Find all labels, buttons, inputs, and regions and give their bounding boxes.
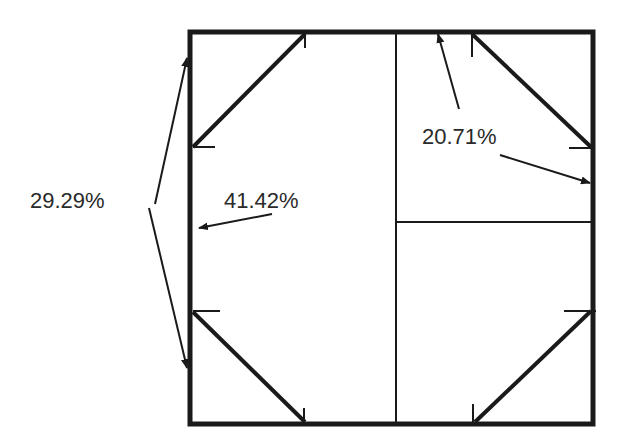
octagon-diagram: 29.29% 41.42% 20.71% <box>0 0 626 448</box>
label-41-42: 41.42% <box>224 188 299 213</box>
diagonal-top-left <box>193 34 305 147</box>
diagonal-bottom-right <box>475 311 591 422</box>
diagonal-bottom-left <box>193 312 305 422</box>
arrow-29-upper <box>155 58 187 204</box>
arrow-41 <box>199 214 272 228</box>
arrow-20-right <box>500 155 590 183</box>
label-29-29: 29.29% <box>30 188 105 213</box>
label-20-71: 20.71% <box>422 124 497 149</box>
arrow-29-lower <box>149 208 187 368</box>
arrow-20-up <box>438 34 459 109</box>
